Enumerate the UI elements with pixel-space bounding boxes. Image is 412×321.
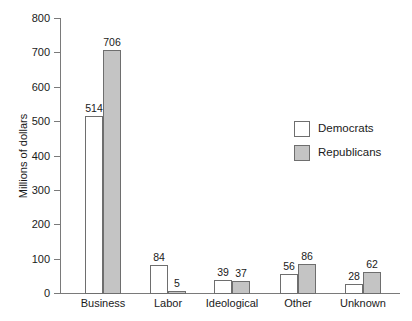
y-tick-label-700: 700 <box>12 46 50 58</box>
y-tick-mark-200 <box>54 224 60 225</box>
y-tick-mark-100 <box>54 259 60 260</box>
y-tick-label-300: 300 <box>12 184 50 196</box>
bar-value-unknown-republicans: 62 <box>354 258 390 270</box>
bar-labor-republicans <box>168 291 186 294</box>
y-tick-label-400: 400 <box>12 150 50 162</box>
bar-business-republicans <box>103 50 121 294</box>
y-tick-label-500: 500 <box>12 115 50 127</box>
bar-unknown-democrats <box>345 284 363 294</box>
y-tick-label-200: 200 <box>12 218 50 230</box>
y-tick-label-100: 100 <box>12 253 50 265</box>
bar-value-ideological-republicans: 37 <box>223 267 259 279</box>
bar-chart: Millions of dollars 800 700 600 500 400 … <box>0 0 412 321</box>
bar-value-labor-democrats: 84 <box>141 251 177 263</box>
y-tick-mark-0 <box>54 293 60 294</box>
bar-value-business-republicans: 706 <box>94 36 130 48</box>
bar-ideological-republicans <box>232 281 250 294</box>
y-tick-label-600: 600 <box>12 81 50 93</box>
legend-label-democrats: Democrats <box>318 122 374 134</box>
gray-square-swatch-icon <box>294 145 310 161</box>
bar-value-other-republicans: 86 <box>289 250 325 262</box>
y-tick-mark-700 <box>54 52 60 53</box>
bar-value-labor-republicans: 5 <box>159 277 195 289</box>
white-square-swatch-icon <box>294 121 310 137</box>
x-category-label-unknown: Unknown <box>316 297 410 309</box>
bar-value-business-democrats: 514 <box>76 102 112 114</box>
bar-value-unknown-democrats: 28 <box>336 270 372 282</box>
bar-ideological-democrats <box>214 280 232 294</box>
y-tick-mark-300 <box>54 190 60 191</box>
y-tick-mark-500 <box>54 121 60 122</box>
y-axis-line <box>60 18 61 294</box>
y-tick-label-0: 0 <box>12 287 50 299</box>
bar-other-democrats <box>280 274 298 294</box>
y-tick-mark-600 <box>54 87 60 88</box>
y-tick-label-800: 800 <box>12 12 50 24</box>
y-tick-mark-400 <box>54 156 60 157</box>
bar-business-democrats <box>85 116 103 294</box>
y-tick-mark-800 <box>54 18 60 19</box>
legend-label-republicans: Republicans <box>318 146 381 158</box>
